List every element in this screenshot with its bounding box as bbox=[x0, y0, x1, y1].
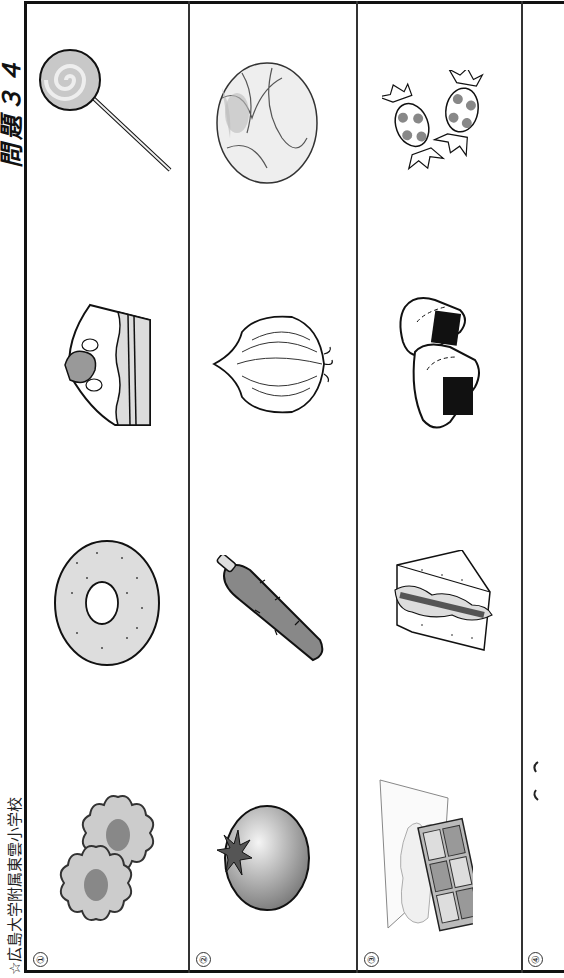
header-strip: ☆広島大学附属東雲小学校 問題３４ bbox=[0, 0, 24, 978]
row-number-1: ① bbox=[33, 952, 48, 967]
partial-item-image bbox=[530, 760, 547, 810]
sandwich-image[interactable] bbox=[392, 550, 497, 670]
donut-image[interactable] bbox=[52, 538, 162, 668]
lollipop-image[interactable] bbox=[35, 45, 175, 175]
candies-image[interactable] bbox=[382, 70, 492, 175]
chocolate-image[interactable] bbox=[378, 778, 473, 938]
row-number-3: ③ bbox=[364, 952, 379, 967]
carrot-image[interactable] bbox=[215, 555, 330, 665]
school-name: ☆広島大学附属東雲小学校 bbox=[3, 797, 24, 975]
cake-image[interactable] bbox=[60, 300, 160, 430]
onion-image[interactable] bbox=[212, 312, 337, 417]
row-divider bbox=[356, 1, 358, 973]
row-divider bbox=[521, 1, 523, 973]
cookies-image[interactable] bbox=[58, 790, 158, 930]
cabbage-image[interactable] bbox=[212, 58, 322, 188]
row-number-2: ② bbox=[196, 952, 211, 967]
tomato-image[interactable] bbox=[212, 800, 312, 915]
row-number-4: ④ bbox=[528, 952, 543, 967]
question-title: 問題３４ bbox=[0, 56, 24, 168]
onigiri-image[interactable] bbox=[395, 292, 485, 437]
row-divider bbox=[188, 1, 190, 973]
